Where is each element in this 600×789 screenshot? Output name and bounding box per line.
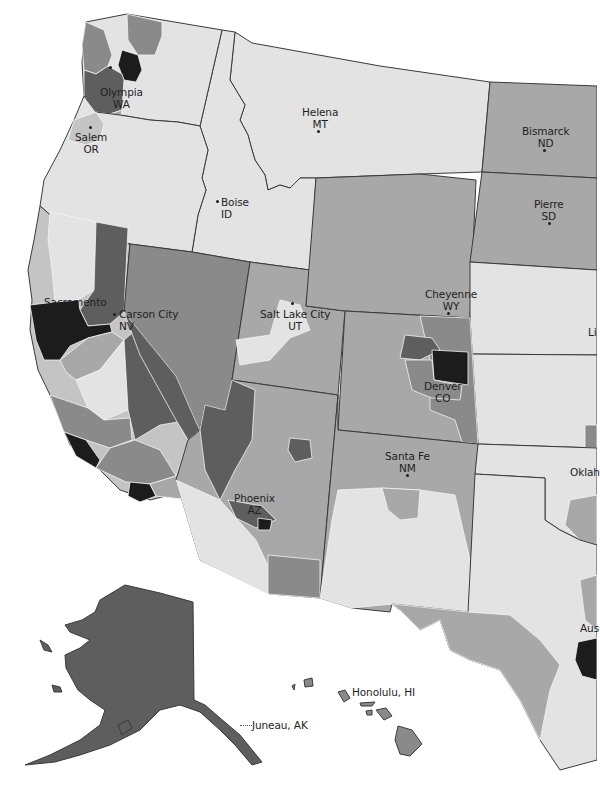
capital-label-helena: Helena MT bbox=[302, 106, 338, 130]
state-kansas[interactable] bbox=[470, 354, 597, 448]
capital-label-pierre: Pierre SD bbox=[534, 198, 564, 222]
state-abbr: UT bbox=[260, 320, 330, 332]
clipped-label-oklahoma-city: Oklah bbox=[570, 466, 600, 478]
capital-dot-helena bbox=[317, 130, 320, 133]
island-hawaii-maui bbox=[376, 708, 392, 720]
city-name: Denver bbox=[424, 380, 462, 392]
island-alaska-1 bbox=[40, 640, 52, 652]
capital-dot-boise bbox=[216, 200, 219, 203]
city-name: Sacramento bbox=[44, 296, 107, 308]
capital-dot-bismarck bbox=[543, 149, 546, 152]
state-abbr: WY bbox=[425, 300, 477, 312]
state-abbr: NM bbox=[385, 462, 430, 474]
district-ks-east[interactable] bbox=[585, 425, 597, 448]
juneau-leader-line bbox=[240, 725, 252, 726]
island-hawaii-oahu bbox=[338, 690, 350, 702]
city-name: Santa Fe bbox=[385, 450, 430, 462]
capital-label-salem: Salem OR bbox=[75, 131, 107, 155]
district-ca-north-light[interactable] bbox=[48, 212, 96, 302]
island-hawaii-molokai bbox=[360, 702, 375, 706]
city-name: Helena bbox=[302, 106, 338, 118]
capital-label-carson-city: Carson City NV bbox=[119, 308, 178, 332]
capital-label-santa-fe: Santa Fe NM bbox=[385, 450, 430, 474]
capital-label-phoenix: Phoenix AZ bbox=[234, 492, 275, 516]
capital-dot-salt-lake-city bbox=[291, 302, 294, 305]
capital-label-bismarck: Bismarck ND bbox=[522, 125, 569, 149]
state-abbr: SD bbox=[534, 210, 564, 222]
city-name: Olympia bbox=[100, 86, 143, 98]
capital-dot-salem bbox=[89, 126, 92, 129]
state-abbr: OR bbox=[75, 143, 107, 155]
state-abbr: ND bbox=[522, 137, 569, 149]
capital-label-cheyenne: Cheyenne WY bbox=[425, 288, 477, 312]
island-hawaii-niihau bbox=[292, 684, 295, 690]
state-alaska[interactable] bbox=[25, 585, 262, 765]
island-hawaii-kauai bbox=[304, 678, 313, 687]
state-abbr: CA bbox=[44, 308, 107, 320]
city-name: Boise bbox=[221, 196, 249, 208]
capital-label-denver: Denver CO bbox=[424, 380, 462, 404]
inset-label-juneau: Juneau, AK bbox=[252, 719, 308, 731]
city-name: Salt Lake City bbox=[260, 308, 330, 320]
island-alaska-2 bbox=[52, 685, 62, 692]
city-name: Phoenix bbox=[234, 492, 275, 504]
capital-label-salt-lake-city: Salt Lake City UT bbox=[260, 308, 330, 332]
state-abbr: AZ bbox=[234, 504, 275, 516]
state-abbr: MT bbox=[302, 118, 338, 130]
state-abbr: ID bbox=[221, 208, 249, 220]
capital-label-boise: Boise ID bbox=[221, 196, 249, 220]
capital-dot-olympia bbox=[109, 66, 112, 69]
state-abbr: CO bbox=[424, 392, 462, 404]
capital-dot-santa-fe bbox=[406, 474, 409, 477]
city-name: Salem bbox=[75, 131, 107, 143]
state-abbr: WA bbox=[100, 98, 143, 110]
state-abbr: NV bbox=[119, 320, 178, 332]
clipped-label-lincoln: Li bbox=[588, 326, 597, 338]
state-montana[interactable] bbox=[230, 32, 490, 190]
city-name: Carson City bbox=[119, 308, 178, 320]
island-hawaii-big bbox=[395, 726, 422, 756]
city-name: Bismarck bbox=[522, 125, 569, 137]
capital-dot-cheyenne bbox=[447, 312, 450, 315]
inset-label-honolulu: Honolulu, HI bbox=[352, 686, 415, 698]
capital-label-olympia: Olympia WA bbox=[100, 86, 143, 110]
clipped-label-austin: Aus bbox=[580, 622, 599, 634]
state-nebraska[interactable] bbox=[470, 262, 597, 355]
capital-label-sacramento: Sacramento CA bbox=[44, 296, 107, 320]
island-hawaii-lanai bbox=[366, 710, 372, 715]
capital-dot-pierre bbox=[548, 222, 551, 225]
capital-dot-carson-city bbox=[113, 313, 116, 316]
district-az-south[interactable] bbox=[268, 555, 320, 598]
city-name: Pierre bbox=[534, 198, 564, 210]
district-az-phx-core[interactable] bbox=[258, 518, 272, 530]
city-name: Cheyenne bbox=[425, 288, 477, 300]
